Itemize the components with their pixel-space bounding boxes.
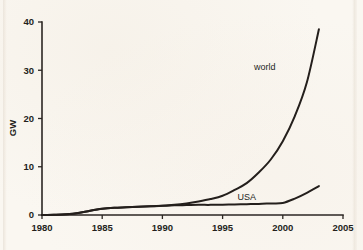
y-axis-title: GW <box>7 120 18 136</box>
x-tick-label: 1990 <box>152 222 173 233</box>
y-tick-label: 40 <box>23 16 34 27</box>
chart-figure: 010203040 198019851990199520002005 GW wo… <box>0 0 363 250</box>
x-tick-label: 1985 <box>92 222 114 233</box>
series-line-usa <box>42 186 319 215</box>
line-chart-svg: 010203040 198019851990199520002005 GW wo… <box>0 0 363 250</box>
series-annotation-usa: USA <box>237 192 256 202</box>
y-tick-label: 20 <box>23 113 34 124</box>
x-tick-label: 2000 <box>272 222 293 233</box>
x-tick-label: 1980 <box>31 222 52 233</box>
y-tick-label: 10 <box>23 161 34 172</box>
y-tick-label: 30 <box>23 65 34 76</box>
x-tick-label: 1995 <box>212 222 234 233</box>
x-tick-label: 2005 <box>332 222 354 233</box>
y-tick-label: 0 <box>29 209 34 220</box>
x-axis-tick-labels: 198019851990199520002005 <box>31 222 354 233</box>
series-line-world <box>42 29 319 215</box>
y-axis-tick-labels: 010203040 <box>23 16 34 220</box>
series-annotation-world: world <box>253 62 276 72</box>
